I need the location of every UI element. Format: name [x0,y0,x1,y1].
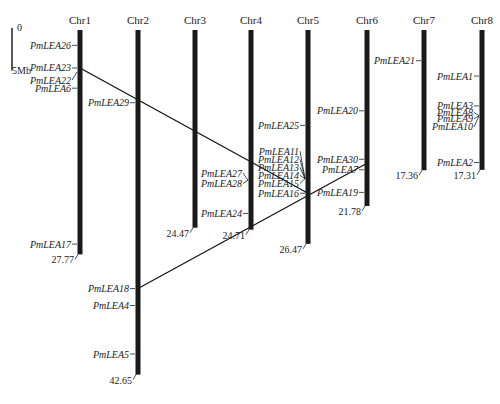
gene-marker-pmlea17: PmLEA17 [29,239,77,250]
chromosome-label: Chr4 [240,14,263,26]
gene-marker-pmlea26: PmLEA26 [29,40,77,51]
chromosome-bar [249,30,254,230]
gene-marker-pmlea29: PmLEA29 [87,97,135,108]
chromosome-chr2: Chr242.65PmLEA29PmLEA18PmLEA4PmLEA5 [87,14,149,386]
length-tick [246,230,249,235]
chromosome-length-label: 24.47 [167,228,190,239]
chromosome-label: Chr5 [297,14,320,26]
chromosome-chr7: Chr717.36PmLEA21 [373,14,436,181]
chromosome-length-label: 24.71 [223,230,246,241]
gene-label: PmLEA20 [316,105,358,116]
chromosome-bar [422,30,427,170]
chromosome-label: Chr1 [69,14,91,26]
length-tick [75,254,78,259]
chromosome-label: Chr7 [413,14,436,26]
gene-marker-pmlea30: PmLEA30 [316,154,364,165]
gene-tick [72,72,77,80]
gene-marker-pmlea1: PmLEA1 [436,71,479,82]
gene-label: PmLEA19 [316,187,358,198]
chromosome-label: Chr3 [184,14,207,26]
chromosomes: Chr127.77PmLEA26PmLEA23PmLEA22PmLEA6PmLE… [29,14,494,386]
gene-label: PmLEA26 [29,40,71,51]
chromosome-bar [136,30,141,375]
scale-bar: 0 5Mb [12,22,31,76]
gene-label: PmLEA5 [92,349,129,360]
chromosome-length-label: 42.65 [110,375,133,386]
gene-marker-pmlea6: PmLEA6 [34,83,77,94]
chromosome-length-label: 27.77 [52,254,75,265]
gene-marker-pmlea4: PmLEA4 [92,300,135,311]
chromosome-bar [306,30,311,244]
gene-label: PmLEA18 [87,283,129,294]
gene-label: PmLEA2 [436,157,473,168]
gene-label: PmLEA23 [29,62,71,73]
scale-bar-top-label: 0 [17,22,22,33]
gene-label: PmLEA16 [257,188,299,199]
length-tick [419,170,422,175]
length-tick [477,170,480,175]
scale-bar-bottom-label: 5Mb [12,65,31,76]
length-tick [362,206,365,211]
gene-label: PmLEA29 [87,97,129,108]
chromosome-bar [193,30,198,228]
length-tick [133,375,136,380]
gene-label: PmLEA24 [200,208,242,219]
gene-tick [243,180,248,183]
gene-label: PmLEA27 [200,168,243,179]
gene-marker-pmlea18: PmLEA18 [87,283,135,294]
gene-tick [243,173,248,180]
length-tick [303,244,306,249]
chromosome-length-label: 26.47 [280,244,303,255]
gene-label: PmLEA4 [92,300,129,311]
gene-marker-pmlea19: PmLEA19 [316,187,364,198]
gene-label: PmLEA1 [436,71,473,82]
chromosome-chr8: Chr817.31PmLEA1PmLEA3PmLEA8PmLEA9PmLEA10… [431,14,494,181]
chromosome-label: Chr2 [127,14,149,26]
chromosome-chr4: Chr424.71PmLEA27PmLEA28PmLEA24 [200,14,263,241]
gene-label: PmLEA21 [373,55,415,66]
gene-marker-pmlea24: PmLEA24 [200,208,248,219]
chromosome-chr6: Chr621.78PmLEA20PmLEA30PmLEA7PmLEA19 [316,14,379,217]
gene-marker-pmlea16: PmLEA16 [257,188,305,199]
gene-marker-pmlea21: PmLEA21 [373,55,421,66]
gene-label: PmLEA7 [321,164,359,175]
gene-tick [474,112,479,115]
gene-label: PmLEA6 [34,83,71,94]
gene-label: PmLEA28 [200,178,242,189]
gene-tick [300,179,305,184]
length-tick [190,228,193,233]
gene-marker-pmlea2: PmLEA2 [436,157,479,168]
chromosome-label: Chr8 [471,14,494,26]
chromosome-chr1: Chr127.77PmLEA26PmLEA23PmLEA22PmLEA6PmLE… [29,14,91,265]
gene-label: PmLEA30 [316,154,358,165]
chromosome-bar [365,30,370,206]
chromosome-bar [78,30,83,254]
gene-marker-pmlea25: PmLEA25 [257,120,305,131]
gene-marker-pmlea28: PmLEA28 [200,178,248,189]
chromosome-length-label: 17.36 [396,170,419,181]
gene-label: PmLEA17 [29,239,72,250]
chromosome-length-label: 21.78 [339,206,362,217]
gene-marker-pmlea5: PmLEA5 [92,349,135,360]
chromosome-length-label: 17.31 [454,170,477,181]
chromosome-label: Chr6 [356,14,379,26]
gene-marker-pmlea23: PmLEA23 [29,62,77,73]
gene-marker-pmlea20: PmLEA20 [316,105,364,116]
gene-label: PmLEA10 [431,121,473,132]
chromosome-bar [480,30,485,170]
gene-label: PmLEA25 [257,120,299,131]
chromosome-map: 0 5Mb Chr127.77PmLEA26PmLEA23PmLEA22PmLE… [0,0,500,404]
gene-marker-pmlea7: PmLEA7 [321,164,364,175]
